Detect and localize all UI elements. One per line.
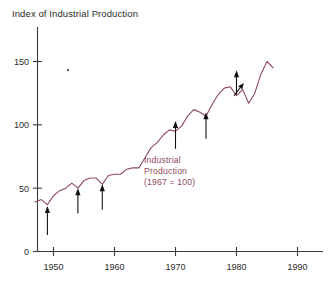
x-tick-label-1950: 1950 <box>43 262 63 272</box>
y-tick-label-150: 150 <box>14 57 29 67</box>
x-tick-label-1970: 1970 <box>165 262 185 272</box>
recession-arrow-1954 <box>75 188 80 213</box>
x-tick-label-1980: 1980 <box>226 262 246 272</box>
recession-arrow-1970 <box>173 121 178 149</box>
plot-area: 050100150 19501960197019801990 Industria… <box>0 0 334 287</box>
recession-arrow-1954-head <box>75 188 80 195</box>
series-annotation: Industrial Production (1967 = 100) <box>144 155 195 187</box>
recession-arrow-1980-head <box>234 70 239 77</box>
recession-arrow-1958-head <box>100 184 105 191</box>
recession-arrow-1949 <box>45 206 50 235</box>
recession-arrow-1958 <box>100 184 105 209</box>
scan-speck <box>67 69 69 71</box>
x-tick-label-1990: 1990 <box>287 262 307 272</box>
y-tick-label-0: 0 <box>24 247 29 257</box>
series-annotation-line-3: (1967 = 100) <box>144 177 195 187</box>
recession-arrow-1975 <box>203 112 208 139</box>
y-tick-label-100: 100 <box>14 120 29 130</box>
series-annotation-line-1: Industrial <box>144 155 181 165</box>
recession-arrow-group <box>45 70 244 235</box>
x-tick-group: 19501960197019801990 <box>43 247 307 272</box>
recession-arrow-1982-head <box>238 83 244 89</box>
y-tick-label-50: 50 <box>19 184 29 194</box>
x-tick-label-1960: 1960 <box>104 262 124 272</box>
recession-arrow-1949-head <box>45 206 50 213</box>
recession-arrow-1970-head <box>173 121 178 128</box>
series-annotation-line-2: Production <box>144 166 187 176</box>
industrial-production-chart: Index of Industrial Production 050100150… <box>0 0 334 287</box>
